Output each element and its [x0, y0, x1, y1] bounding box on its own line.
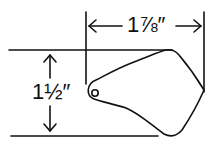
mounting-hole-icon	[92, 90, 98, 96]
dimension-drawing	[0, 0, 220, 144]
part-outline	[88, 50, 204, 136]
height-dimension-label: 1½″	[32, 81, 70, 103]
width-dimension-label: 1⅞″	[127, 14, 165, 36]
